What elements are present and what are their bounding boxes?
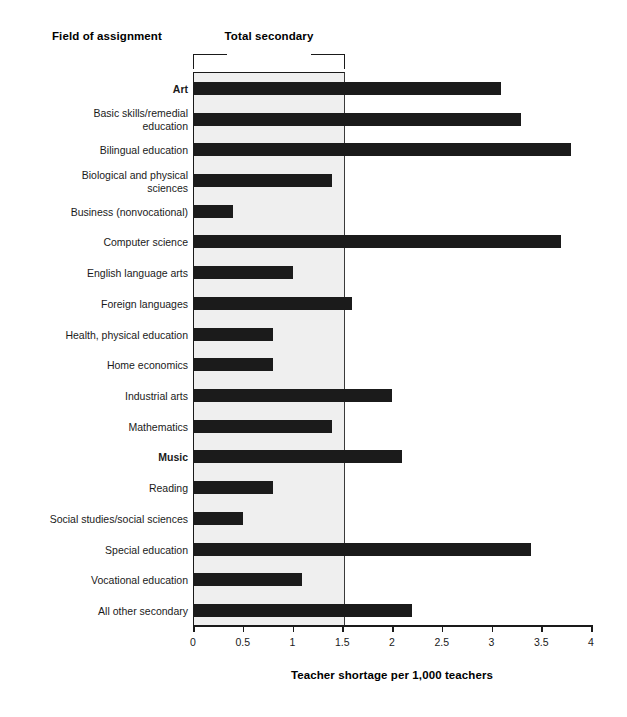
category-label: Vocational education xyxy=(18,574,188,587)
chart-row: Mathematics xyxy=(0,410,627,441)
bar xyxy=(193,543,531,556)
category-label: English language arts xyxy=(18,267,188,280)
total-secondary-heading: Total secondary xyxy=(193,30,345,42)
chart-row: Reading xyxy=(0,471,627,502)
bar xyxy=(193,481,273,494)
x-axis-tick xyxy=(492,625,494,632)
x-axis-tick xyxy=(392,625,394,632)
bar xyxy=(193,82,501,95)
category-label: Basic skills/remedial education xyxy=(18,107,188,133)
plot-area: ArtBasic skills/remedial educationBiling… xyxy=(0,72,627,625)
bracket-tick-right xyxy=(344,54,345,69)
bar xyxy=(193,450,402,463)
chart-row: Music xyxy=(0,441,627,472)
category-label: Industrial arts xyxy=(18,390,188,403)
total-secondary-bracket xyxy=(193,54,345,69)
bar xyxy=(193,420,332,433)
bar xyxy=(193,512,243,525)
chart-row: English language arts xyxy=(0,256,627,287)
bar xyxy=(193,573,302,586)
category-label: Special education xyxy=(18,544,188,557)
category-label: Foreign languages xyxy=(18,298,188,311)
bar xyxy=(193,389,392,402)
x-axis-tick xyxy=(541,625,543,632)
x-axis-tick-label: 2 xyxy=(372,636,412,648)
chart-row: Bilingual education xyxy=(0,133,627,164)
bar xyxy=(193,266,293,279)
x-axis-tick-label: 0 xyxy=(173,636,213,648)
chart-row: Home economics xyxy=(0,348,627,379)
bar xyxy=(193,174,332,187)
chart-row: Health, physical education xyxy=(0,318,627,349)
category-label: Biological and physical sciences xyxy=(18,169,188,195)
teacher-shortage-bar-chart: Field of assignment Total secondary ArtB… xyxy=(0,0,627,717)
chart-row: Special education xyxy=(0,533,627,564)
bar xyxy=(193,358,273,371)
bracket-line-right xyxy=(311,54,345,55)
x-axis-title: Teacher shortage per 1,000 teachers xyxy=(193,669,591,681)
bracket-line-left xyxy=(193,54,227,55)
category-label: Business (nonvocational) xyxy=(18,206,188,219)
chart-row: Social studies/social sciences xyxy=(0,502,627,533)
bar xyxy=(193,297,352,310)
category-label: Mathematics xyxy=(18,421,188,434)
bar xyxy=(193,604,412,617)
bar xyxy=(193,205,233,218)
x-axis-tick xyxy=(243,625,245,632)
chart-row: Business (nonvocational) xyxy=(0,195,627,226)
chart-row: Industrial arts xyxy=(0,379,627,410)
x-axis-tick xyxy=(442,625,444,632)
x-axis-tick xyxy=(293,625,295,632)
x-axis-tick-label: 1 xyxy=(273,636,313,648)
chart-row: Art xyxy=(0,72,627,103)
bar xyxy=(193,143,571,156)
x-axis-tick-label: 1.5 xyxy=(322,636,362,648)
x-axis-tick xyxy=(342,625,344,632)
bracket-tick-left xyxy=(193,54,194,69)
category-label: Music xyxy=(18,451,188,464)
x-axis-tick-label: 3 xyxy=(472,636,512,648)
chart-row: Basic skills/remedial education xyxy=(0,103,627,134)
x-axis-tick-label: 3.5 xyxy=(521,636,561,648)
chart-row: Biological and physical sciences xyxy=(0,164,627,195)
chart-row: Foreign languages xyxy=(0,287,627,318)
category-label: Reading xyxy=(18,482,188,495)
bar xyxy=(193,328,273,341)
chart-row: Computer science xyxy=(0,226,627,257)
bar xyxy=(193,235,561,248)
category-label: Art xyxy=(18,83,188,96)
x-axis-tick xyxy=(591,625,593,632)
chart-row: Vocational education xyxy=(0,564,627,595)
category-label: All other secondary xyxy=(18,605,188,618)
x-axis-tick-label: 0.5 xyxy=(223,636,263,648)
category-label: Health, physical education xyxy=(18,329,188,342)
x-axis-tick-label: 4 xyxy=(571,636,611,648)
x-axis-tick-label: 2.5 xyxy=(422,636,462,648)
category-label: Computer science xyxy=(18,236,188,249)
chart-header: Field of assignment Total secondary xyxy=(0,30,627,54)
x-axis-tick xyxy=(193,625,195,632)
category-label: Bilingual education xyxy=(18,144,188,157)
chart-row: All other secondary xyxy=(0,594,627,625)
bar xyxy=(193,113,521,126)
field-of-assignment-heading: Field of assignment xyxy=(52,30,162,42)
category-label: Social studies/social sciences xyxy=(18,513,188,526)
category-label: Home economics xyxy=(18,359,188,372)
